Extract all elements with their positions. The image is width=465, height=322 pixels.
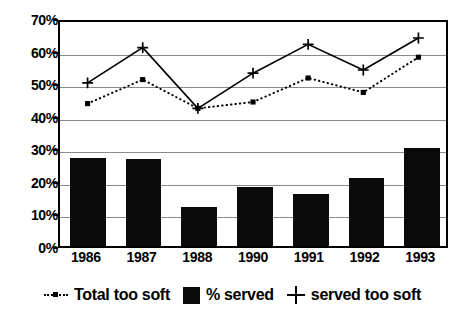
data-point-marker <box>82 77 93 88</box>
data-point-marker <box>140 77 145 82</box>
filled-square-icon <box>183 287 200 304</box>
legend-item-percent-served: % served <box>183 286 274 304</box>
legend-item-total-too-soft: Total too soft <box>44 286 170 304</box>
legend-label-percent-served: % served <box>206 286 274 304</box>
plus-marker-icon <box>287 286 305 304</box>
x-axis: 1986198719881990199119921993 <box>58 250 448 274</box>
y-tick-label: 50% <box>6 78 58 92</box>
x-tick-label: 1992 <box>337 250 393 264</box>
legend-item-served-too-soft: served too soft <box>287 286 421 304</box>
y-tick-label: 30% <box>6 143 58 157</box>
x-tick-label: 1990 <box>225 250 281 264</box>
y-tick-label: 70% <box>6 13 58 27</box>
y-tick-label: 60% <box>6 46 58 60</box>
data-point-marker <box>250 99 255 104</box>
y-axis: 0%10%20%30%40%50%60%70% <box>0 0 58 322</box>
data-point-marker <box>361 90 366 95</box>
chart-container: 0%10%20%30%40%50%60%70% 1986198719881990… <box>0 0 465 322</box>
line-series-total-too-soft <box>85 55 421 111</box>
y-tick-label: 40% <box>6 111 58 125</box>
data-point-marker <box>85 101 90 106</box>
data-point-marker <box>358 65 369 76</box>
y-tick-label: 0% <box>6 241 58 255</box>
x-tick-label: 1993 <box>392 250 448 264</box>
y-tick-label: 20% <box>6 176 58 190</box>
y-tick-label: 10% <box>6 208 58 222</box>
data-point-marker <box>248 68 259 79</box>
x-tick-label: 1991 <box>281 250 337 264</box>
x-tick-label: 1987 <box>114 250 170 264</box>
data-point-marker <box>416 55 421 60</box>
legend-label-served-too-soft: served too soft <box>311 286 421 304</box>
chart-legend: Total too soft % served served too soft <box>0 286 465 304</box>
x-tick-label: 1988 <box>169 250 225 264</box>
line-series-layer <box>60 22 446 246</box>
x-tick-label: 1986 <box>58 250 114 264</box>
data-point-marker <box>306 75 311 80</box>
legend-label-total-too-soft: Total too soft <box>74 286 170 304</box>
data-point-marker <box>413 33 424 44</box>
data-point-marker <box>303 39 314 50</box>
plot-area <box>58 20 448 248</box>
dotted-line-square-marker-icon <box>44 290 68 300</box>
